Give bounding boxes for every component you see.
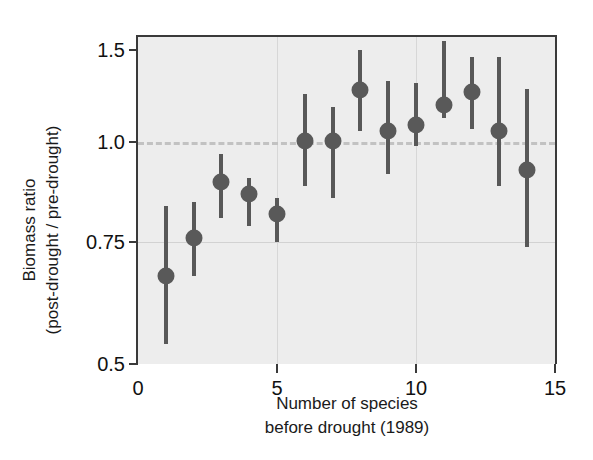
x-axis-tick [276,364,278,373]
data-point [296,133,313,150]
data-point [380,122,397,139]
x-axis-tick [554,364,556,373]
data-point [519,162,536,179]
data-point [463,84,480,101]
y-axis-tick-label: 0.75 [86,231,125,254]
error-bar [414,83,418,146]
x-axis-label-line-1: Number of species [138,392,556,416]
chart-figure: Biomass ratio (post-drought / pre-drough… [0,0,593,460]
data-point [408,117,425,134]
y-axis-tick-label: 1.0 [97,131,125,154]
data-point [241,186,258,203]
error-bar [331,107,335,198]
data-point [435,97,452,114]
data-point [352,82,369,99]
data-point [157,268,174,285]
y-axis-label-line-1: Biomass ratio [18,179,41,282]
x-axis-label-line-2: before drought (1989) [138,416,556,440]
y-axis-tick-label: 0.5 [97,353,125,376]
y-axis-tick [129,363,138,365]
data-point [213,174,230,191]
y-axis-tick [129,241,138,243]
data-point [324,133,341,150]
y-axis-tick [129,49,138,51]
reference-line-1 [138,142,555,145]
x-axis-tick [415,364,417,373]
plot-area: 0.50.751.01.5051015 [138,35,557,364]
y-axis-label: Biomass ratio (post-drought / pre-drough… [0,0,100,460]
y-axis-label-line-2: (post-drought / pre-drought) [41,126,64,335]
y-axis-tick-label: 1.5 [97,39,125,62]
y-axis-tick [129,141,138,143]
data-point [185,230,202,247]
x-axis-label: Number of species before drought (1989) [138,392,556,440]
data-point [269,206,286,223]
data-point [491,122,508,139]
